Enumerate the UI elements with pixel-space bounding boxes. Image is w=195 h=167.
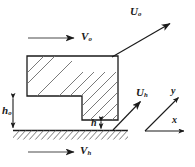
coordinate-axes (145, 98, 184, 132)
diagram-canvas (0, 0, 195, 167)
label-U-o: Uo (130, 6, 141, 18)
ground-surface (10, 130, 134, 141)
label-V-h: Vh (80, 145, 91, 157)
block-outline (27, 56, 118, 120)
label-axis-x: x (172, 115, 177, 125)
label-h-o: ho (2, 105, 12, 117)
label-V-o: Vo (81, 31, 92, 43)
ground-hatching (10, 130, 134, 141)
label-axis-y: y (171, 86, 175, 96)
label-U-h: Uh (136, 87, 148, 99)
step-bearing-diagram: Uo Vo Uh Vh ho h x y (0, 0, 195, 167)
U-o-vector (112, 24, 170, 58)
label-h: h (91, 118, 97, 128)
